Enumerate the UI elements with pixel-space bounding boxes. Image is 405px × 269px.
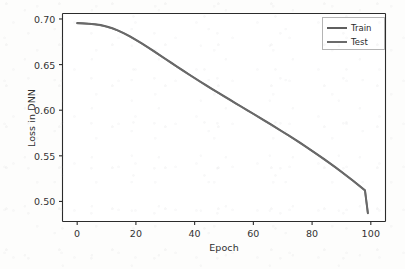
y-axis-label: Loss in DNN [26, 88, 37, 146]
y-tick-label: 0.55 [34, 150, 56, 161]
x-tick-label: 20 [130, 228, 142, 239]
x-tick-label: 100 [362, 228, 380, 239]
y-tick-label: 0.50 [34, 196, 56, 207]
legend-item-test: Test [327, 38, 368, 47]
legend-line-swatch-test [327, 41, 347, 43]
legend-item-train: Train [327, 24, 371, 33]
loss-curve-figure: 020406080100 0.700.650.600.550.50 Epoch … [0, 0, 405, 269]
legend-line-swatch-train [327, 27, 347, 29]
x-tick-label: 40 [188, 228, 200, 239]
x-tick-label: 80 [306, 228, 318, 239]
legend-label-train: Train [351, 24, 371, 33]
x-axis-label: Epoch [209, 242, 239, 253]
chart-legend: Train Test [322, 17, 385, 50]
chart-screenshot: 020406080100 0.700.650.600.550.50 Epoch … [0, 0, 405, 269]
y-tick-label: 0.65 [34, 59, 56, 70]
x-tick-label: 60 [247, 228, 259, 239]
legend-label-test: Test [351, 38, 368, 47]
x-tick-label: 0 [74, 228, 80, 239]
y-tick-label: 0.70 [34, 13, 56, 24]
y-tick-label: 0.60 [34, 105, 56, 116]
